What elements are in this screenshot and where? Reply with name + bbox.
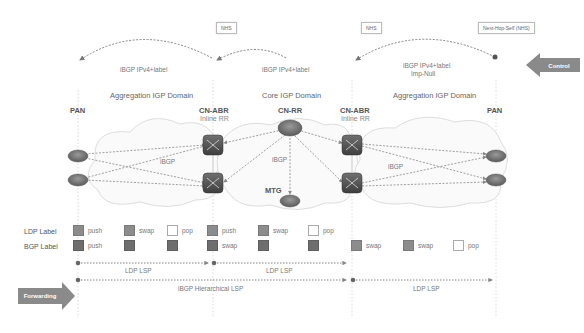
bgp-op-1: push [73, 240, 102, 251]
bgp-op-7: swap [351, 240, 381, 251]
ldp-op-1: push [73, 225, 102, 236]
ibgp-label-core: iBGP IPv4+label [262, 66, 309, 73]
bgp-op-8: swap [403, 240, 433, 251]
cn-abr-left-label: CN-ABR [199, 106, 229, 115]
control-arrow: Control [538, 59, 580, 72]
forwarding-arrow: Forwarding [18, 288, 62, 304]
pan-left-label: PAN [70, 106, 85, 115]
nhs-callout-2: NHS [361, 22, 382, 34]
bgp-op-6 [308, 240, 323, 251]
domain-core: Core IGP Domain [262, 91, 321, 100]
ldp-lsp-label-2: LDP LSP [266, 267, 293, 274]
cn-abr-right-sublabel: Inline RR [341, 115, 370, 122]
cn-abr-right-label: CN-ABR [340, 106, 370, 115]
bgp-op-4: swap [207, 240, 237, 251]
ldp-op-6: pop [308, 225, 334, 236]
mtg-label: MTG [265, 186, 282, 195]
ldp-op-2: swap [124, 225, 154, 236]
bgp-op-9: pop [453, 240, 479, 251]
bgp-label-row-title: BGP Label [24, 243, 58, 250]
bgp-op-5 [258, 240, 273, 251]
bgp-op-2 [124, 240, 139, 251]
mtg-router [280, 195, 300, 207]
cn-abr-left-sublabel: Inline RR [200, 115, 229, 122]
domain-aggregation-left: Aggregation IGP Domain [110, 91, 193, 100]
ldp-op-3: pop [167, 225, 193, 236]
forwarding-label: Forwarding [24, 293, 57, 299]
nhs-callout-1: NHS [216, 22, 237, 34]
ldp-lsp-label-1: LDP LSP [125, 267, 152, 274]
ibgp-hierarchical-lsp-label: iBGP Hierarchical LSP [178, 285, 243, 292]
pan-right-label: PAN [487, 106, 502, 115]
ibgp-link-left: iBGP [160, 158, 175, 165]
ibgp-link-core: iBGP [272, 156, 287, 163]
ibgp-label-left: iBGP IPv4+label [120, 66, 167, 73]
ldp-op-4: push [207, 225, 236, 236]
cn-rr-router [278, 120, 302, 136]
domain-aggregation-right: Aggregation IGP Domain [393, 91, 476, 100]
cn-rr-label: CN-RR [278, 106, 302, 115]
control-plane-arrows [80, 39, 495, 60]
ldp-label-row-title: LDP Label [24, 228, 57, 235]
bgp-op-3 [167, 240, 182, 251]
seamless-mpls-diagram: NHS NHS Next-Hop-Self (NHS) iBGP IPv4+la… [0, 0, 584, 333]
ldp-op-5: swap [258, 225, 288, 236]
ldp-lsp-label-3: LDP LSP [413, 285, 440, 292]
control-label: Control [548, 63, 569, 69]
diagram-canvas [0, 0, 584, 333]
next-hop-self-callout: Next-Hop-Self (NHS) [478, 22, 535, 34]
imp-null-label: Imp-Null [411, 70, 435, 77]
ibgp-label-right: iBGP IPv4+label [403, 62, 450, 69]
ibgp-link-right: iBGP [388, 163, 403, 170]
